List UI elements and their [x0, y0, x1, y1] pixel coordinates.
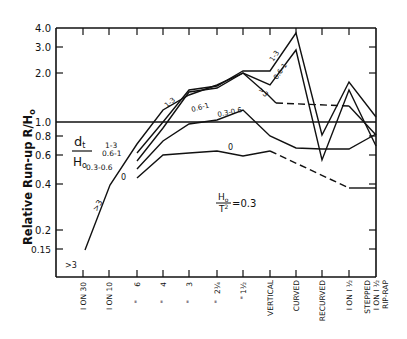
svg-text:T2: T2 [218, 203, 229, 214]
curve-gt3-tail [349, 106, 376, 135]
svg-text:STEPPED: STEPPED [363, 280, 372, 314]
svg-text:dt: dt [74, 134, 85, 150]
svg-text:=0.3: =0.3 [232, 198, 256, 209]
svg-text:0.3-0.6: 0.3-0.6 [217, 106, 243, 119]
svg-text:I ON I ½: I ON I ½ [345, 280, 354, 310]
svg-text:0: 0 [121, 173, 126, 182]
curve-0-3-0-6 [137, 110, 376, 169]
svg-text:0.4: 0.4 [35, 179, 51, 190]
svg-text:": " [213, 300, 222, 303]
svg-text:>3: >3 [65, 261, 77, 270]
svg-text:0: 0 [228, 143, 233, 152]
svg-text:": " [133, 300, 142, 303]
svg-text:1-3: 1-3 [268, 49, 281, 63]
svg-text:CURVED: CURVED [292, 280, 301, 311]
legend-dt-h0: dt Ho 1-3 0.6-1 0.3-0.6 0 >3 >3 [65, 134, 126, 270]
y-ticks-right [369, 47, 376, 249]
svg-text:VERTICAL: VERTICAL [266, 279, 275, 316]
y-axis-title: Relative Run-up R/Ho [21, 109, 37, 245]
svg-text:4.0: 4.0 [35, 23, 51, 34]
svg-text:6: 6 [133, 282, 142, 287]
svg-text:1½: 1½ [239, 282, 248, 294]
x-ticks-bottom [83, 270, 349, 277]
curve-0-dashed [270, 151, 349, 188]
svg-text:3: 3 [185, 282, 194, 287]
svg-text:": " [185, 300, 194, 303]
svg-text:0.3-0.6: 0.3-0.6 [86, 163, 113, 172]
annotation-h0-t2: Ho T2 =0.3 [216, 192, 256, 214]
svg-text:": " [159, 300, 168, 303]
x-tick-labels: I ON 30 I ON 10 6 " 4 " 3 " 2¼ " 1½ " VE… [79, 279, 390, 321]
svg-text:4: 4 [159, 282, 168, 287]
svg-text:Relative Run-up R/Ho: Relative Run-up R/Ho [21, 109, 37, 245]
y-ticks-left [56, 47, 63, 249]
svg-text:2¼: 2¼ [213, 281, 222, 294]
svg-text:>3: >3 [257, 86, 270, 99]
svg-text:RIP-RAP: RIP-RAP [381, 280, 390, 310]
curve-0 [137, 151, 270, 178]
svg-text:0.6-1: 0.6-1 [190, 102, 210, 114]
run-up-chart: 4.0 3.0 2.0 1.0 0.8 0.6 0.4 0.2 0.15 Rel… [0, 0, 407, 339]
svg-text:3.0: 3.0 [35, 42, 51, 53]
svg-text:2.0: 2.0 [35, 68, 51, 79]
svg-text:RECURVED: RECURVED [318, 280, 327, 321]
curves [85, 33, 376, 250]
svg-text:1.0: 1.0 [35, 117, 51, 128]
svg-text:0.8: 0.8 [35, 131, 51, 142]
svg-text:0.2: 0.2 [35, 225, 51, 236]
svg-text:I ON 10: I ON 10 [105, 282, 114, 310]
svg-text:0.6: 0.6 [35, 150, 51, 161]
svg-text:I ON 30: I ON 30 [79, 282, 88, 310]
svg-text:I ON I ½: I ON I ½ [372, 280, 381, 310]
svg-text:Ho: Ho [73, 155, 87, 170]
svg-text:0.15: 0.15 [31, 245, 51, 255]
svg-text:Ho: Ho [218, 192, 229, 203]
x-ticks-top [83, 28, 349, 35]
svg-text:>3: >3 [91, 198, 105, 213]
svg-text:": " [239, 296, 248, 299]
svg-text:0.6-1: 0.6-1 [102, 149, 122, 158]
